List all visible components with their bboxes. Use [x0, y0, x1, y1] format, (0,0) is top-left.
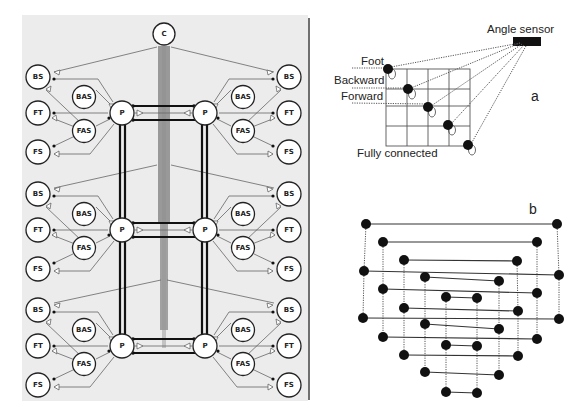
node-bas-right-1: BAS [232, 86, 255, 109]
node-bas-right-2: BAS [232, 203, 255, 226]
svg-text:BS: BS [33, 73, 43, 81]
node-fas-right-2: FAS [232, 237, 255, 260]
node-bas-left-3: BAS [73, 319, 96, 342]
svg-text:FT: FT [284, 342, 294, 350]
node-fs-left-2: FS [26, 257, 50, 281]
node-fs-right-1: FS [277, 140, 301, 164]
svg-text:FS: FS [33, 381, 43, 389]
sensor-grid-panel: Angle sensor [334, 23, 554, 159]
node-p-left-2: P [110, 218, 134, 242]
diagonal-neurons [383, 64, 476, 155]
node-bas-left-1: BAS [73, 86, 96, 109]
node-fs-left-1: FS [26, 140, 50, 164]
svg-text:P: P [202, 226, 207, 234]
svg-text:FAS: FAS [236, 244, 250, 252]
svg-text:BAS: BAS [76, 93, 92, 101]
svg-text:FS: FS [284, 381, 294, 389]
svg-text:FT: FT [33, 342, 43, 350]
node-bs-left-1: BS [26, 65, 50, 89]
vertical-links [363, 224, 559, 393]
node-fas-left-2: FAS [73, 237, 96, 260]
node-p-left-1: P [110, 101, 134, 125]
node-fas-left-1: FAS [73, 120, 96, 143]
svg-text:BS: BS [284, 73, 294, 81]
node-bs-right-3: BS [277, 298, 301, 322]
svg-text:BAS: BAS [235, 210, 251, 218]
svg-text:FT: FT [284, 226, 294, 234]
svg-text:BAS: BAS [76, 326, 92, 334]
svg-text:FS: FS [33, 265, 43, 273]
svg-text:BS: BS [33, 190, 43, 198]
svg-text:P: P [119, 342, 124, 350]
node-central: C [153, 23, 175, 45]
node-ft-right-3: FT [277, 334, 301, 358]
node-bas-left-2: BAS [73, 203, 96, 226]
node-bs-right-1: BS [277, 65, 301, 89]
node-bs-left-3: BS [26, 298, 50, 322]
svg-text:C: C [161, 30, 166, 38]
node-fas-right-3: FAS [232, 353, 255, 376]
svg-text:P: P [202, 342, 207, 350]
svg-text:BS: BS [284, 190, 294, 198]
node-bs-left-2: BS [26, 182, 50, 206]
cpg-network-panel: C BS BAS FT FAS FS P P BAS FAS BS FT FS … [22, 15, 309, 401]
node-ft-left-1: FT [26, 101, 50, 125]
svg-text:FT: FT [33, 226, 43, 234]
panel-b-tag: b [529, 201, 537, 217]
svg-text:FT: FT [284, 109, 294, 117]
node-ft-left-2: FT [26, 218, 50, 242]
neural-network-figure: C BS BAS FT FAS FS P P BAS FAS BS FT FS … [0, 0, 580, 418]
node-fas-right-1: FAS [232, 120, 255, 143]
ring-neurons [358, 219, 564, 398]
ring-network-panel: b [358, 201, 564, 398]
node-p-right-1: P [193, 101, 217, 125]
forward-label: Forward [341, 90, 383, 102]
svg-text:BAS: BAS [76, 210, 92, 218]
node-ft-right-2: FT [277, 218, 301, 242]
svg-text:P: P [202, 109, 207, 117]
node-bas-right-3: BAS [232, 319, 255, 342]
angle-sensor-label: Angle sensor [487, 23, 554, 35]
node-ft-left-3: FT [26, 334, 50, 358]
svg-text:FS: FS [33, 148, 43, 156]
svg-text:FT: FT [33, 109, 43, 117]
svg-text:FS: FS [284, 148, 294, 156]
node-fs-right-3: FS [277, 373, 301, 397]
svg-text:FAS: FAS [77, 127, 91, 135]
svg-text:BS: BS [284, 306, 294, 314]
svg-text:BS: BS [33, 306, 43, 314]
svg-text:BAS: BAS [235, 93, 251, 101]
svg-text:FAS: FAS [236, 360, 250, 368]
svg-text:P: P [119, 226, 124, 234]
svg-text:FAS: FAS [77, 244, 91, 252]
node-bs-right-2: BS [277, 182, 301, 206]
backward-label: Backward [334, 74, 385, 86]
fully-connected-label: Fully connected [357, 147, 438, 159]
svg-text:P: P [119, 109, 124, 117]
node-fs-right-2: FS [277, 257, 301, 281]
svg-text:FAS: FAS [77, 360, 91, 368]
svg-text:FS: FS [284, 265, 294, 273]
panel-a-tag: a [531, 88, 539, 104]
node-fas-left-3: FAS [73, 353, 96, 376]
node-fs-left-3: FS [26, 373, 50, 397]
node-p-right-2: P [193, 218, 217, 242]
node-p-right-3: P [193, 334, 217, 358]
svg-text:BAS: BAS [235, 326, 251, 334]
node-ft-right-1: FT [277, 101, 301, 125]
node-p-left-3: P [110, 334, 134, 358]
horizontal-links [363, 224, 559, 393]
svg-text:FAS: FAS [236, 127, 250, 135]
foot-label: Foot [361, 55, 385, 67]
